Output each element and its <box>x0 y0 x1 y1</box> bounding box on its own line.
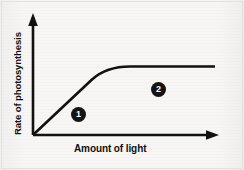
photosynthesis-curve <box>34 67 216 135</box>
photosynthesis-light-chart: Rate of photosynthesis Amount of light 1… <box>0 0 244 170</box>
x-axis-label: Amount of light <box>74 143 146 154</box>
y-axis-label: Rate of photosynthesis <box>12 32 23 135</box>
annotation-marker-2: 2 <box>151 82 166 97</box>
y-axis-arrow-icon <box>28 13 38 26</box>
annotation-marker-1: 1 <box>71 107 86 122</box>
x-axis-arrow-icon <box>206 130 219 140</box>
